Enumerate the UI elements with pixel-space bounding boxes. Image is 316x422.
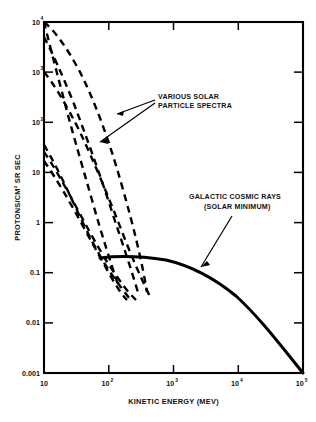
gcr-annotation-group: GALACTIC COSMIC RAYS (SOLAR MINIMUM) xyxy=(189,193,281,267)
x-axis-title: KINETIC ENERGY (MEV) xyxy=(128,397,219,406)
galactic-cosmic-ray-curve xyxy=(100,257,303,373)
gcr-annotation-line1: GALACTIC COSMIC RAYS xyxy=(189,193,281,201)
x-tick-label: 10 xyxy=(166,379,174,388)
solar-curve-5 xyxy=(44,145,130,299)
y-tick-exponent: 4 xyxy=(41,16,44,21)
x-tick-label: 10 xyxy=(296,379,304,388)
gcr-annotation-line2: (SOLAR MINIMUM) xyxy=(204,203,271,211)
y-tick-label: 0.01 xyxy=(26,318,40,327)
solar-curve-6 xyxy=(44,152,136,300)
solar-annotation-group: VARIOUS SOLAR PARTICLE SPECTRA xyxy=(100,93,232,144)
solar-curve-7 xyxy=(44,161,127,300)
y-tick-label: 10 xyxy=(32,68,40,77)
solar-curve-2 xyxy=(44,22,147,292)
x-tick-exponent: 3 xyxy=(175,378,178,383)
y-tick-label: 1 xyxy=(36,218,40,227)
y-tick-label: 0.1 xyxy=(30,268,40,277)
y-tick-label: 10 xyxy=(32,168,40,177)
chart-page: 10 4 10 3 10 2 10 1 0.1 0.01 0.001 10 10… xyxy=(0,0,316,422)
x-tick-label: 10 xyxy=(40,379,48,388)
x-tick-labels: 10 10 2 10 3 10 4 10 5 xyxy=(40,378,308,388)
y-tick-exponent: 3 xyxy=(41,66,44,71)
x-tick-exponent: 5 xyxy=(305,378,308,383)
y-tick-exponent: 2 xyxy=(41,117,44,122)
x-tick-exponent: 2 xyxy=(111,378,114,383)
solar-annotation-line1: VARIOUS SOLAR xyxy=(158,93,219,101)
y-axis-title: PROTONS/CM² SR SEC xyxy=(13,154,22,241)
x-tick-label: 10 xyxy=(102,379,110,388)
y-tick-label: 10 xyxy=(32,118,40,127)
gcr-annotation-leader xyxy=(201,216,232,267)
solar-annotation-leader-2 xyxy=(100,103,155,142)
x-tick-exponent: 4 xyxy=(240,378,243,383)
y-tick-label: 0.001 xyxy=(22,369,40,378)
y-tick-labels: 10 4 10 3 10 2 10 1 0.1 0.01 0.001 xyxy=(22,16,44,377)
solar-annotation-line2: PARTICLE SPECTRA xyxy=(158,102,232,110)
proton-flux-chart: 10 4 10 3 10 2 10 1 0.1 0.01 0.001 10 10… xyxy=(0,0,316,422)
y-tick-label: 10 xyxy=(32,18,40,27)
x-tick-label: 10 xyxy=(231,379,239,388)
